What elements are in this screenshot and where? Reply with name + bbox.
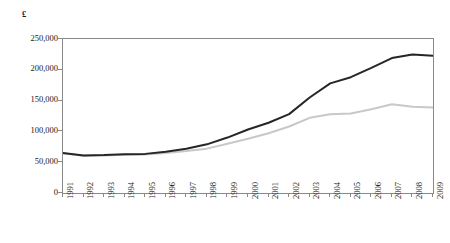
x-axis-tick-label: 1996 [168,182,177,199]
x-axis-tick-label: 2007 [394,182,403,199]
x-axis-tick-label: 2005 [353,182,362,199]
x-axis-tick-labels: 1991199219931994199519961997199819992000… [0,0,450,243]
x-axis-tick-label: 2000 [251,182,260,199]
x-axis-tick-label: 1994 [127,182,136,199]
x-axis-tick-label: 2003 [312,182,321,199]
x-axis-tick-label: 1992 [86,182,95,199]
x-axis-tick-label: 2006 [374,182,383,199]
x-axis-tick-label: 2008 [415,182,424,199]
x-axis-tick-label: 1991 [66,182,75,199]
x-axis-tick-label: 1997 [189,182,198,199]
x-axis-tick-label: 1995 [148,182,157,199]
chart-page: £ 050,000100,000150,000200,000250,000 19… [0,0,450,243]
x-axis-tick-label: 2004 [333,182,342,199]
x-axis-tick-label: 2009 [436,182,445,199]
x-axis-tick-label: 2002 [292,182,301,199]
x-axis-tick-label: 2001 [271,182,280,199]
x-axis-tick-label: 1998 [209,182,218,199]
x-axis-tick-label: 1993 [107,182,116,199]
x-axis-tick-label: 1999 [230,182,239,199]
